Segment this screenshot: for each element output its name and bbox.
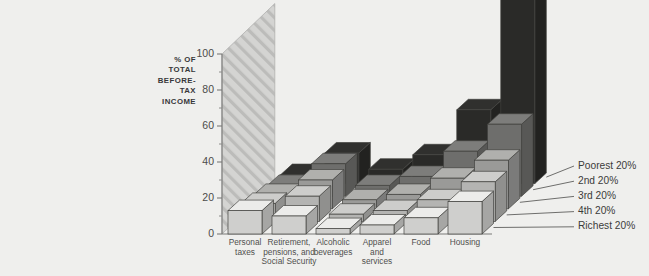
depth-series-label: 4th 20% <box>578 205 615 216</box>
category-label: beverages <box>314 247 353 257</box>
bar <box>272 206 318 235</box>
y-tick-label: 100 <box>196 47 214 59</box>
y-tick-label: 40 <box>202 155 214 167</box>
category-label: services <box>362 256 392 266</box>
y-tick-label: 60 <box>202 119 214 131</box>
bar <box>316 218 362 234</box>
depth-series-label: 2nd 20% <box>578 175 618 186</box>
bar <box>404 207 450 234</box>
category-label: Apparel <box>363 237 392 247</box>
category-label: Personal <box>229 237 262 247</box>
bar <box>448 191 494 234</box>
category-label: Food <box>412 237 431 247</box>
depth-series-label: 3rd 20% <box>578 190 616 201</box>
axis-title-line: TAX <box>180 86 197 95</box>
y-tick-label: 20 <box>202 191 214 203</box>
category-label: taxes <box>235 247 255 257</box>
category-label: Social Security <box>262 256 318 266</box>
category-labels: PersonaltaxesRetirement,pensions, andSoc… <box>229 237 481 266</box>
depth-series-label: Poorest 20% <box>578 160 636 171</box>
category-label: and <box>370 247 384 257</box>
category-label: Retirement, <box>268 237 311 247</box>
bars-group <box>228 0 546 234</box>
three-d-bar-chart: 020406080100 PersonaltaxesRetirement,pen… <box>0 0 649 276</box>
category-label: pensions, and <box>263 247 315 257</box>
axis-title: % OFTOTALBEFORE-TAXINCOME <box>158 55 197 106</box>
y-tick-label: 0 <box>208 227 214 239</box>
category-label: Alcoholic <box>316 237 349 247</box>
y-tick-label: 80 <box>202 83 214 95</box>
bar <box>228 200 274 234</box>
axis-title-line: TOTAL <box>168 65 196 74</box>
depth-series-label: Richest 20% <box>578 220 635 231</box>
category-label: Housing <box>450 237 481 247</box>
axis-title-line: BEFORE- <box>158 76 196 85</box>
chart-figure: 020406080100 PersonaltaxesRetirement,pen… <box>0 0 649 276</box>
axis-title-line: INCOME <box>162 97 196 106</box>
axis-title-line: % OF <box>174 55 196 64</box>
